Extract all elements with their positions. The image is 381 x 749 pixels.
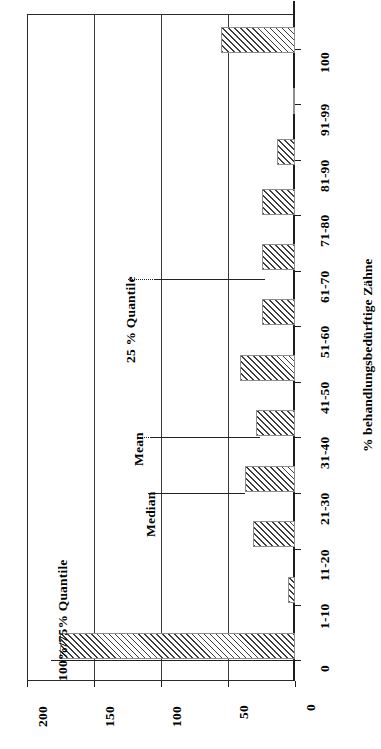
bar-21-30 [245,466,295,492]
cat-tick-31-40 [295,437,301,438]
val-tick-200 [27,681,28,687]
cat-tick-0 [295,660,301,661]
val-tick-150 [94,681,95,687]
cat-label-11-20: 11-20 [317,549,333,581]
val-tick-100 [161,681,162,687]
cat-label-0: 0 [317,665,333,672]
bar-51-60 [262,299,295,325]
annotation-quantile-100-75: 100%/75% Quantile [55,559,71,681]
bar-71-80 [262,189,295,215]
bar-1-10 [288,577,295,603]
category-axis-title: % behandlungsbedürftige Zähne [360,259,376,452]
cat-tick-21-30 [295,493,301,494]
annotation-quantile-25: 25 % Quantile [123,276,139,363]
bar-81-90 [277,139,295,165]
annotation-median: Median [143,492,159,537]
whisker-quantile-100-75 [51,660,295,661]
val-label-100: 100 [169,706,185,727]
bar-0 [60,633,295,659]
cat-tick-81-90 [295,160,301,161]
bar-41-50 [240,355,295,381]
cat-tick-41-50 [295,382,301,383]
bar-100 [221,27,295,53]
cat-tick-61-70 [295,271,301,272]
annotation-mean: Mean [131,432,147,466]
cat-tick-100 [295,49,301,50]
cat-tick-71-80 [295,215,301,216]
cat-label-41-50: 41-50 [317,382,333,415]
gridline-50 [228,15,229,680]
val-label-150: 150 [102,706,118,727]
cat-label-71-80: 71-80 [317,215,333,248]
cat-tick-91-99 [295,104,301,105]
cat-label-91-99: 91-99 [317,104,333,137]
cat-label-100: 100 [317,52,333,73]
gridline-100 [161,15,162,680]
cat-label-21-30: 21-30 [317,493,333,526]
cat-label-1-10: 1-10 [317,603,333,629]
gridline-150 [94,15,95,680]
bar-31-40 [256,410,295,436]
cat-tick-1-10 [295,605,301,606]
cat-label-81-90: 81-90 [317,160,333,193]
cat-tick-51-60 [295,326,301,327]
cat-tick-11-20 [295,549,301,550]
cat-label-61-70: 61-70 [317,271,333,304]
bar-61-70 [262,244,295,270]
cat-label-51-60: 51-60 [317,326,333,359]
val-tick-0 [295,681,296,687]
val-tick-50 [228,681,229,687]
bar-11-20 [253,521,295,547]
bar-91-99 [293,88,295,114]
val-label-0: 0 [303,704,319,711]
chart-figure: 100%/75% Quantile Median Mean 25 % Quant… [0,0,381,749]
cat-label-31-40: 31-40 [317,437,333,470]
val-label-50: 50 [236,705,252,719]
val-label-200: 200 [35,706,51,727]
